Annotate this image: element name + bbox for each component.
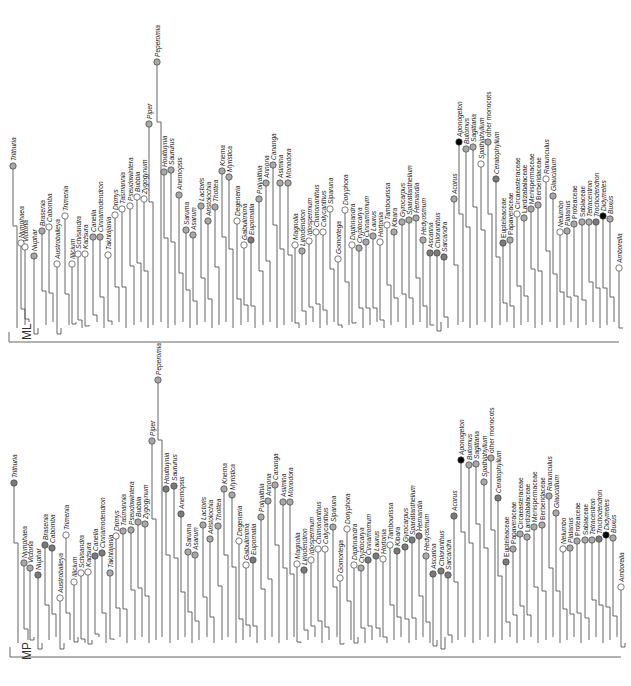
taxon-label: Anemopsis (176, 157, 184, 191)
taxon-label: Nelumbo (557, 200, 564, 227)
taxon-node-icon (42, 542, 48, 548)
branch (534, 527, 538, 643)
branch (145, 524, 149, 643)
branch (309, 241, 313, 322)
taxon-node-icon (301, 567, 307, 573)
taxon-label: Chloranthus (434, 212, 441, 248)
taxon-node-icon (402, 544, 408, 550)
branch (390, 545, 394, 640)
taxon-node-icon (241, 242, 247, 248)
taxon-label: Lactoris (200, 496, 207, 520)
taxon-label: Illicium (71, 556, 78, 577)
branch (290, 502, 294, 637)
branch (38, 575, 42, 649)
taxon-label: Liriodendron (299, 209, 306, 246)
taxon-label: Ascarina (427, 222, 434, 249)
taxon-label: Austrobaileya (57, 553, 65, 594)
taxon-label: Ranunculus (543, 138, 550, 174)
branch (412, 540, 416, 640)
taxon-node-icon (470, 144, 476, 150)
branch (304, 570, 308, 640)
branch (222, 171, 226, 322)
taxon-node-icon (292, 242, 298, 248)
taxon-node-icon (212, 204, 218, 210)
taxon-node-icon (607, 216, 613, 222)
taxon-label: Proteaceae (571, 185, 578, 219)
branch (563, 549, 567, 640)
branch (311, 560, 315, 637)
taxon-node-icon (46, 224, 52, 230)
taxon-label: Hernandia (416, 500, 423, 531)
branch (123, 531, 127, 643)
taxon-label: Nelumbo (560, 517, 567, 544)
branch (224, 489, 228, 637)
taxon-node-icon (358, 565, 364, 571)
branch (13, 166, 17, 328)
taxon-node-icon (11, 480, 17, 486)
taxon-node-icon (69, 261, 75, 267)
taxon-label: Tasmannia (119, 172, 126, 204)
taxon-label: Saruma (185, 524, 192, 547)
taxon-label: Menispermaceae (531, 471, 539, 522)
taxon-label: Liriodendron (301, 528, 308, 565)
branch (484, 482, 488, 637)
taxon-label: Brasenia (39, 200, 46, 226)
taxon-node-icon (54, 261, 60, 267)
taxon-node-icon (564, 228, 570, 234)
taxon-label: Tambourissa (387, 502, 394, 540)
taxon-node-icon (335, 256, 341, 262)
taxon-node-icon (277, 180, 283, 186)
branch (361, 568, 365, 643)
taxon-label: Victoria (22, 220, 29, 242)
taxon-label: Platanus (567, 517, 574, 543)
mp-panel-label: MP (20, 642, 34, 660)
taxon-label: Galbulimima (241, 203, 248, 240)
taxon-node-icon (178, 511, 184, 517)
branch (397, 551, 401, 637)
branch (513, 549, 517, 643)
taxon-node-icon (503, 559, 509, 565)
taxon-node-icon (198, 203, 204, 209)
taxon-label: Cabomba (46, 193, 53, 222)
taxon-node-icon (149, 438, 155, 444)
branch (373, 236, 377, 322)
branch (259, 199, 263, 325)
taxon-node-icon (342, 207, 348, 213)
branch (137, 197, 141, 322)
taxon-label: Trithuria (10, 137, 17, 161)
taxon-node-icon (128, 527, 134, 533)
branch (433, 574, 437, 646)
taxon-label: Siparuna (327, 177, 335, 204)
branch (157, 62, 161, 322)
taxon-label: Acorus (451, 173, 458, 195)
taxon-node-icon (221, 486, 227, 492)
taxon-label: Brasenia (42, 514, 49, 540)
branch (171, 170, 175, 325)
branch (606, 535, 610, 640)
taxon-label: Ascarina (430, 543, 437, 570)
taxon-label: Sabiaceae (579, 186, 586, 217)
taxon-node-icon (510, 546, 516, 552)
taxon-node-icon (441, 254, 447, 260)
taxon-node-icon (365, 557, 371, 563)
branch (273, 165, 277, 328)
branch (567, 231, 571, 322)
taxon-node-icon (92, 553, 98, 559)
taxon-label: Platanus (564, 200, 571, 226)
taxon-node-icon (416, 533, 422, 539)
taxon-label: Berberidaceae (535, 157, 542, 200)
taxon-label: Amborella (616, 233, 623, 264)
branch (158, 380, 162, 637)
taxon-node-icon (370, 233, 376, 239)
taxon-node-icon (99, 550, 105, 556)
branch (130, 206, 134, 325)
taxon-node-icon (142, 521, 148, 527)
branch (325, 549, 329, 640)
taxon-node-icon (351, 562, 357, 568)
taxon-node-icon (553, 510, 559, 516)
taxon-label: Victoria (27, 541, 34, 563)
taxon-node-icon (200, 522, 206, 528)
taxon-label: Pseudowintera (128, 481, 135, 525)
branch (14, 483, 18, 643)
taxon-node-icon (154, 59, 160, 65)
